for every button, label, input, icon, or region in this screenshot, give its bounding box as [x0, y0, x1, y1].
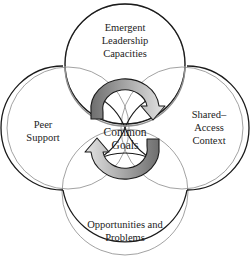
label-line: Opportunities and — [75, 218, 175, 231]
label-line: Goals — [100, 139, 150, 152]
label-shared-access-context: Shared– Access Context — [183, 108, 235, 147]
label-line: Support — [18, 131, 68, 144]
label-line: Emergent — [85, 21, 165, 34]
label-line: Leadership — [85, 34, 165, 47]
label-line: Access — [183, 121, 235, 134]
label-common-goals: Common Goals — [100, 126, 150, 152]
label-line: Problems — [75, 231, 175, 244]
label-line: Shared– — [183, 108, 235, 121]
label-peer-support: Peer Support — [18, 118, 68, 144]
label-line: Context — [183, 134, 235, 147]
label-line: Common — [100, 126, 150, 139]
venn-diagram: Emergent Leadership Capacities Peer Supp… — [0, 0, 250, 264]
label-emergent-leadership: Emergent Leadership Capacities — [85, 21, 165, 60]
label-line: Peer — [18, 118, 68, 131]
label-opportunities-problems: Opportunities and Problems — [75, 218, 175, 244]
label-line: Capacities — [85, 47, 165, 60]
